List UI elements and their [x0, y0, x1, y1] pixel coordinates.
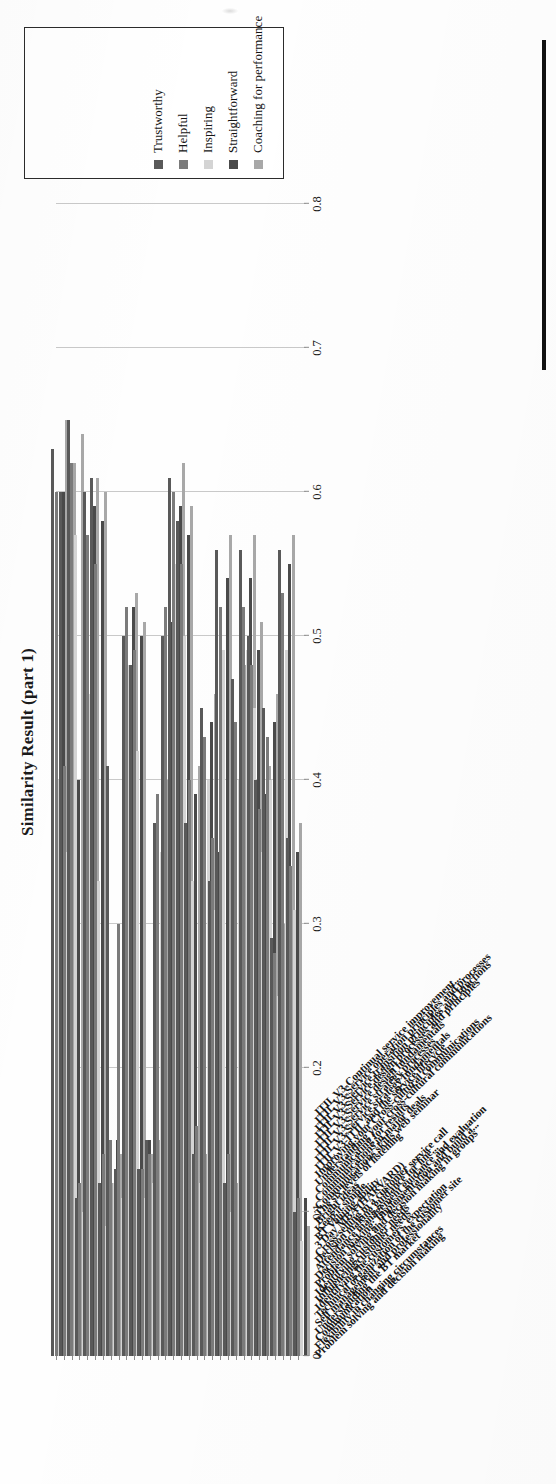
bar-group — [290, 204, 298, 1356]
value-tick-mark — [304, 635, 309, 636]
rotated-figure-wrapper: Similarity Result (part 1) 00.10.20.30.4… — [0, 0, 556, 1484]
category-tick — [95, 1356, 96, 1360]
value-tick-mark — [304, 1211, 309, 1212]
legend-swatch-icon — [179, 160, 188, 169]
value-tick-mark — [304, 779, 309, 780]
category-tick — [298, 1356, 299, 1360]
category-tick — [189, 1356, 190, 1360]
legend-item-label: Inspiring — [200, 106, 216, 153]
legend: TrustworthyHelpfulInspiringStraightforwa… — [24, 27, 284, 179]
plot-area — [56, 204, 306, 1356]
category-tick — [111, 1356, 112, 1360]
category-axis-labels: Problem solving and decision makingFlexi… — [312, 204, 556, 1356]
value-tick-mark — [304, 203, 309, 204]
bar-group — [298, 204, 306, 1356]
category-tick — [204, 1356, 205, 1360]
category-tick — [212, 1356, 213, 1360]
legend-item: Inspiring — [200, 16, 216, 169]
category-tick — [251, 1356, 252, 1360]
category-tick — [87, 1356, 88, 1360]
category-tick — [267, 1356, 268, 1360]
category-tick — [134, 1356, 135, 1360]
category-tick — [290, 1356, 291, 1360]
chart-title: Similarity Result (part 1) — [18, 648, 38, 836]
legend-swatch-icon — [204, 160, 213, 169]
legend-swatch-icon — [154, 160, 163, 169]
bars-container — [56, 204, 306, 1356]
value-tick-mark — [304, 491, 309, 492]
legend-item: Straightforward — [225, 16, 241, 169]
legend-items: TrustworthyHelpfulInspiringStraightforwa… — [150, 16, 275, 169]
category-tick — [244, 1356, 245, 1360]
value-tick-mark — [304, 923, 309, 924]
category-tick — [259, 1356, 260, 1360]
similarity-bar-chart: Similarity Result (part 1) 00.10.20.30.4… — [0, 0, 556, 1484]
legend-item: Trustworthy — [150, 16, 166, 169]
category-tick — [173, 1356, 174, 1360]
category-tick — [283, 1356, 284, 1360]
category-tick — [79, 1356, 80, 1360]
category-tick — [197, 1356, 198, 1360]
category-tick — [72, 1356, 73, 1360]
category-tick — [150, 1356, 151, 1360]
legend-swatch-icon — [229, 160, 238, 169]
category-tick — [103, 1356, 104, 1360]
legend-item: Coaching for performance — [250, 16, 266, 169]
legend-item-label: Straightforward — [225, 71, 241, 153]
value-tick-mark — [304, 347, 309, 348]
category-tick — [236, 1356, 237, 1360]
legend-item-label: Coaching for performance — [250, 16, 266, 153]
legend-swatch-icon — [254, 160, 263, 169]
category-tick — [64, 1356, 65, 1360]
value-tick-mark — [304, 1067, 309, 1068]
legend-item-label: Helpful — [175, 113, 191, 153]
category-tick — [275, 1356, 276, 1360]
scanned-page: Similarity Result (part 1) 00.10.20.30.4… — [0, 0, 556, 1484]
category-tick — [181, 1356, 182, 1360]
category-tick — [126, 1356, 127, 1360]
category-tick — [220, 1356, 221, 1360]
category-tick — [158, 1356, 159, 1360]
category-tick — [56, 1356, 57, 1360]
category-tick — [142, 1356, 143, 1360]
category-tick — [165, 1356, 166, 1360]
category-tick — [119, 1356, 120, 1360]
legend-item-label: Trustworthy — [150, 89, 166, 153]
value-tick-mark — [304, 1355, 309, 1356]
category-tick — [228, 1356, 229, 1360]
legend-item: Helpful — [175, 16, 191, 169]
